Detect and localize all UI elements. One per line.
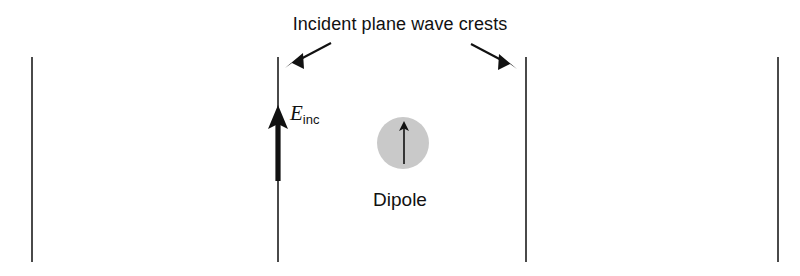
wave-crest-line-2 — [277, 57, 279, 262]
wave-crest-line-4 — [777, 57, 779, 262]
wave-crest-line-1 — [31, 57, 33, 262]
efield-subscript: inc — [303, 112, 320, 127]
dipole-sphere — [377, 117, 429, 169]
dipole-label: Dipole — [0, 190, 800, 210]
incident-plane-wave-dipole-figure: Incident plane wave crests — [0, 0, 800, 276]
wave-crest-line-3 — [525, 57, 527, 262]
incident-efield-label: Einc — [290, 101, 319, 126]
efield-symbol: E — [290, 101, 303, 125]
right-pointer-arrow-icon — [471, 44, 517, 70]
left-pointer-arrow-icon — [285, 43, 331, 69]
figure-title: Incident plane wave crests — [0, 14, 800, 34]
